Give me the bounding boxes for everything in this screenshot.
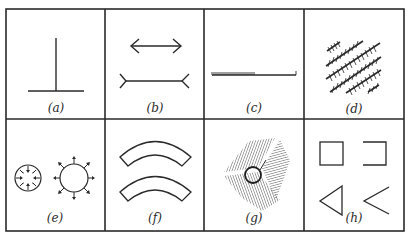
square-complete	[320, 142, 343, 165]
panel-b	[120, 39, 189, 88]
square-incomplete	[363, 142, 386, 165]
circle-outward-arrows	[60, 164, 88, 192]
panel-e	[15, 156, 95, 200]
panel-label-a: (a)	[48, 101, 65, 115]
arc-upper	[120, 142, 191, 167]
panel-label-h: (h)	[345, 211, 362, 225]
arc-lower	[120, 177, 191, 202]
panel-label-f: (f)	[148, 211, 162, 225]
panel-d	[326, 41, 381, 95]
panel-label-b: (b)	[146, 101, 163, 115]
panel-label-c: (c)	[246, 101, 262, 115]
panel-f	[120, 142, 191, 202]
panel-c	[212, 71, 296, 75]
panel-label-d: (d)	[345, 102, 362, 116]
grid-frame	[6, 9, 404, 231]
panel-g	[224, 138, 290, 211]
panel-h	[320, 142, 389, 215]
triangle-complete	[320, 186, 342, 215]
illusion-figure-grid: (a) (b) (c)	[0, 0, 408, 237]
inward-arrows	[16, 166, 40, 190]
fin-left	[120, 74, 126, 88]
panel-a	[28, 38, 84, 91]
panel-label-g: (g)	[245, 211, 262, 225]
panel-label-e: (e)	[47, 211, 64, 225]
triangle-incomplete	[364, 187, 389, 214]
fin-right	[182, 74, 189, 88]
outer-border	[6, 9, 404, 231]
